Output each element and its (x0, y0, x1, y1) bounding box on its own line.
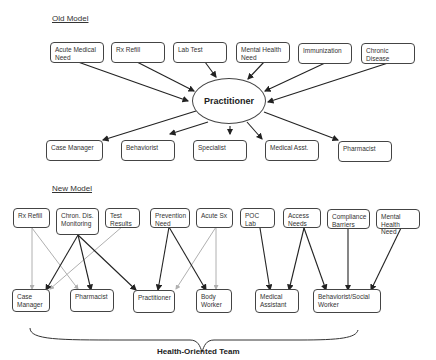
old-input-immunization: Immunization (298, 43, 352, 64)
new-input-poc-lab: POC Lab (240, 208, 275, 228)
old-input-chronic-disease: Chronic Disease (361, 43, 415, 64)
new-input-access-needs: Access Needs (283, 208, 321, 228)
new-output-medical-assistant: Medical Assistant (255, 289, 299, 313)
team-label: Health-Oriented Team (157, 347, 240, 356)
new-model-title: New Model (52, 184, 92, 193)
old-input-mental-health-need: Mental Health Need (236, 42, 290, 63)
old-model-title: Old Model (52, 14, 88, 23)
new-input-mental-health-need: Mental Health Need (376, 209, 420, 229)
new-input-prevention-need: Prevention Need (150, 208, 190, 228)
old-input-acute-medical-need: Acute Medical Need (50, 42, 104, 63)
new-output-practitioner: Practitioner (133, 290, 175, 313)
new-input-acute-sx: Acute Sx (196, 208, 233, 228)
old-input-lab-test: Lab Test (173, 42, 227, 63)
new-output-behaviorist-social-worker: Behaviorist/Social Worker (313, 289, 381, 313)
old-output-specialist: Specialist (193, 140, 247, 161)
old-input-rx-refill: Rx Refill (111, 42, 165, 63)
old-output-case-manager: Case Manager (46, 140, 103, 161)
new-output-case-manager: Case Manager (12, 289, 50, 312)
new-input-compliance-barriers: Compliance Barriers (327, 209, 370, 229)
new-input-test-results: Test Results (105, 208, 140, 228)
new-input-rx-refill: Rx Refill (13, 208, 50, 228)
new-input-chron-dis-monitoring: Chron. Dis. Monitoring (56, 208, 99, 235)
new-output-pharmacist: Pharmacist (70, 289, 114, 312)
new-output-body-worker: Body Worker (196, 289, 232, 313)
old-practitioner-node: Practitioner (192, 78, 266, 124)
old-output-behaviorist: Behaviorist (121, 140, 175, 161)
old-output-pharmacist: Pharmacist (338, 141, 392, 162)
old-output-medical-asst: Medical Asst. (265, 140, 319, 161)
